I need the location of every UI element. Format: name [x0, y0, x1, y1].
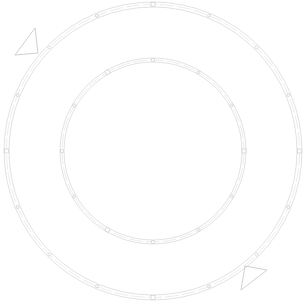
- inner-ring-marker: [105, 69, 110, 74]
- inner-ring-marker: [152, 59, 155, 62]
- inner-ring-marker: [72, 104, 75, 107]
- outer-ring-marker: [16, 93, 19, 96]
- inner-ring-line: [62, 60, 244, 242]
- inner-ring-marker: [230, 195, 233, 198]
- triangle-top-left: [15, 28, 38, 55]
- inner-ring-marker: [152, 241, 155, 244]
- inner-ring-line: [60, 58, 246, 244]
- outer-ring-marker: [151, 296, 155, 300]
- inner-ring: [60, 58, 246, 244]
- outer-ring-marker: [95, 14, 98, 17]
- inner-ring-line: [64, 62, 242, 240]
- inner-ring-marker: [230, 104, 233, 107]
- inner-ring-marker: [72, 195, 75, 198]
- inner-ring-marker: [61, 150, 64, 153]
- outer-ring-line: [9, 7, 297, 295]
- outer-ring-marker: [207, 14, 210, 17]
- inner-ring-marker: [242, 149, 246, 153]
- outer-ring-marker: [16, 205, 19, 208]
- outer-ring-marker: [287, 205, 290, 208]
- outer-ring: [4, 2, 302, 300]
- outer-ring-marker: [151, 3, 155, 7]
- outer-ring-marker: [5, 149, 9, 153]
- inner-ring-marker: [197, 70, 200, 73]
- ring-drawing: [0, 0, 303, 302]
- outer-ring-marker: [207, 285, 210, 288]
- inner-ring-marker: [105, 227, 110, 232]
- outer-ring-marker: [287, 93, 290, 96]
- outer-ring-marker: [298, 149, 302, 153]
- triangle-bottom-right: [241, 266, 267, 290]
- inner-ring-marker: [197, 228, 200, 231]
- outer-ring-marker: [95, 285, 98, 288]
